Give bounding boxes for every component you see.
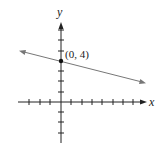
x-axis-arrow-icon <box>140 100 147 105</box>
line-arrow-right-icon <box>139 79 146 84</box>
line-arrow-left-icon <box>19 50 26 55</box>
intercept-point <box>59 59 63 63</box>
y-axis-label: y <box>57 6 62 18</box>
point-label: (0, 4) <box>65 49 89 60</box>
x-axis-label: x <box>149 96 154 108</box>
coordinate-plane <box>0 0 158 155</box>
y-axis-arrow-icon <box>59 22 64 29</box>
